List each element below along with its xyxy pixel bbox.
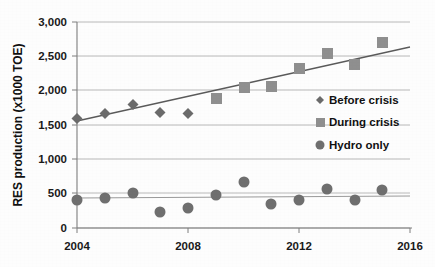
point-hydro-2011: [266, 199, 277, 210]
point-during-2012: [294, 63, 305, 74]
point-before-2005: [100, 108, 111, 119]
legend-item-hydro-only[interactable]: Hydro only: [316, 139, 390, 151]
point-hydro-2013: [322, 184, 333, 195]
point-before-2007: [155, 107, 166, 118]
point-hydro-2014: [350, 195, 361, 206]
hydro-trendline: [77, 196, 410, 198]
y-tick-label-3000: 3,000: [38, 16, 67, 28]
point-hydro-2010: [239, 177, 250, 188]
point-during-2010: [239, 82, 250, 93]
point-during-2009: [211, 93, 222, 104]
point-hydro-2015: [377, 185, 388, 196]
legend-label-hydro-only: Hydro only: [329, 139, 390, 151]
point-during-2013: [322, 48, 333, 59]
x-tick-label-2004: 2004: [64, 240, 90, 252]
legend-circle-icon: [316, 141, 325, 150]
point-during-2015: [377, 37, 388, 48]
res-production-scatter-chart: 3,000 2,500 2,000 1,500 1,000 500 0 2004…: [0, 0, 435, 267]
chart-legend: Before crisis During crisis Hydro only: [316, 94, 400, 151]
point-hydro-2007: [155, 207, 166, 218]
legend-item-during-crisis[interactable]: During crisis: [316, 116, 399, 128]
point-before-2008: [183, 108, 194, 119]
y-tick-label-2000: 2,000: [38, 84, 67, 96]
x-tick-label-2016: 2016: [397, 240, 423, 252]
y-tick-label-0: 0: [61, 222, 67, 234]
y-tick-label-2500: 2,500: [38, 50, 67, 62]
legend-diamond-icon: [316, 96, 324, 104]
point-during-2011: [266, 81, 277, 92]
y-tick-label-1500: 1,500: [38, 119, 67, 131]
x-tick-label-2012: 2012: [286, 240, 312, 252]
legend-square-icon: [316, 118, 325, 127]
y-axis-title: RES production (x1000 TOE): [11, 43, 25, 206]
point-hydro-2004: [72, 195, 83, 206]
series-before-crisis: [72, 99, 194, 124]
point-hydro-2005: [100, 193, 111, 204]
y-tick-label-1000: 1,000: [38, 153, 67, 165]
point-hydro-2009: [211, 190, 222, 201]
point-during-2014: [349, 59, 360, 70]
x-tick-label-2008: 2008: [175, 240, 201, 252]
point-hydro-2012: [294, 195, 305, 206]
point-hydro-2008: [183, 203, 194, 214]
chart-container: 3,000 2,500 2,000 1,500 1,000 500 0 2004…: [0, 0, 435, 267]
x-axis: [77, 228, 412, 233]
y-tick-label-500: 500: [48, 187, 67, 199]
legend-item-before-crisis[interactable]: Before crisis: [316, 94, 399, 106]
legend-label-before-crisis: Before crisis: [329, 94, 399, 106]
legend-label-during-crisis: During crisis: [329, 116, 399, 128]
point-before-2004: [72, 113, 83, 124]
point-hydro-2006: [128, 188, 139, 199]
